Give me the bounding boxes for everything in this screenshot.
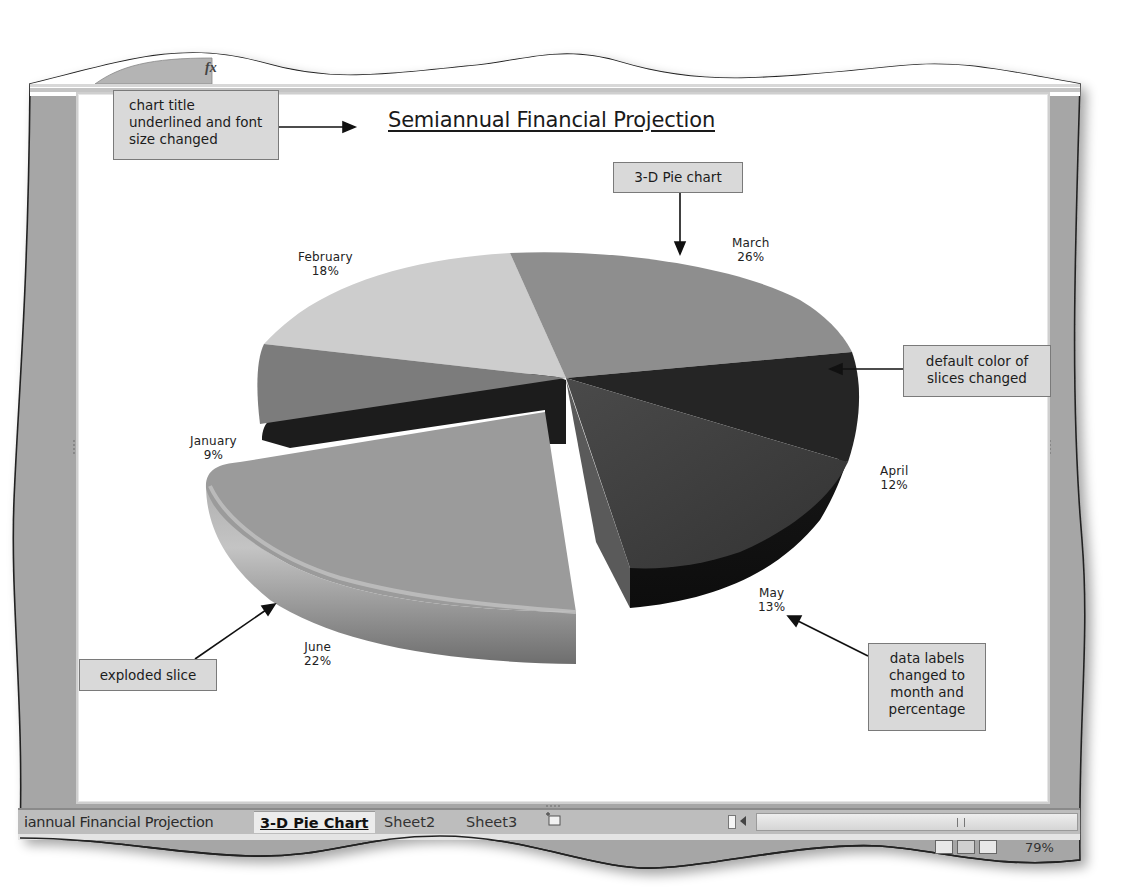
page-break-preview-button[interactable] bbox=[979, 840, 997, 854]
label-month: June bbox=[304, 640, 331, 654]
scroll-track[interactable] bbox=[756, 813, 1078, 831]
label-month: February bbox=[298, 250, 353, 264]
tab-sheet3[interactable]: Sheet3 bbox=[460, 811, 523, 833]
scroll-grip-icon[interactable] bbox=[957, 818, 965, 827]
label-percent: 12% bbox=[880, 478, 908, 492]
status-bar: 79% bbox=[935, 838, 1075, 862]
label-month: April bbox=[880, 464, 908, 478]
label-percent: 26% bbox=[732, 250, 770, 264]
horizontal-scrollbar[interactable] bbox=[728, 813, 1078, 831]
data-label-june[interactable]: June 22% bbox=[304, 640, 331, 668]
data-label-march[interactable]: March 26% bbox=[732, 236, 770, 264]
tab-split-handle[interactable] bbox=[728, 815, 736, 829]
normal-view-button[interactable] bbox=[935, 840, 953, 854]
data-label-january[interactable]: January 9% bbox=[190, 434, 237, 462]
callout-slice-colors: default color of slices changed bbox=[903, 345, 1051, 397]
scroll-left-icon[interactable] bbox=[740, 816, 746, 826]
excel-window-clip: fx bbox=[0, 0, 1126, 888]
page-layout-view-button[interactable] bbox=[957, 840, 975, 854]
tab-3d-pie-chart[interactable]: 3-D Pie Chart bbox=[254, 811, 375, 833]
sheet-tab-bar: iannual Financial Projection 3-D Pie Cha… bbox=[18, 811, 718, 833]
callout-data-labels: data labels changed to month and percent… bbox=[868, 643, 986, 731]
callout-exploded-slice: exploded slice bbox=[79, 659, 217, 691]
label-percent: 9% bbox=[190, 448, 237, 462]
callout-3d-pie: 3-D Pie chart bbox=[613, 162, 743, 193]
data-label-april[interactable]: April 12% bbox=[880, 464, 908, 492]
label-percent: 18% bbox=[298, 264, 353, 278]
label-month: January bbox=[190, 434, 237, 448]
label-percent: 13% bbox=[758, 600, 785, 614]
chart-title[interactable]: Semiannual Financial Projection bbox=[388, 108, 715, 132]
label-percent: 22% bbox=[304, 654, 331, 668]
tab-semiannual-financial-projection[interactable]: iannual Financial Projection bbox=[18, 811, 219, 833]
tab-sheet2[interactable]: Sheet2 bbox=[378, 811, 441, 833]
label-month: March bbox=[732, 236, 770, 250]
callout-chart-title: chart title underlined and font size cha… bbox=[113, 90, 279, 160]
label-month: May bbox=[758, 586, 785, 600]
data-label-may[interactable]: May 13% bbox=[758, 586, 785, 614]
zoom-level[interactable]: 79% bbox=[1025, 840, 1054, 855]
insert-worksheet-icon[interactable] bbox=[538, 811, 568, 833]
data-label-february[interactable]: February 18% bbox=[298, 250, 353, 278]
